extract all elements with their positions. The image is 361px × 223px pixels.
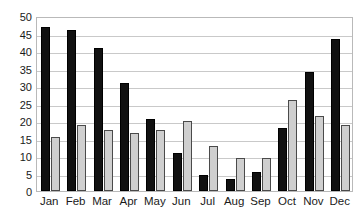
bar [199, 175, 208, 191]
x-axis-tick-label: Jan [36, 196, 62, 208]
bars-layer [37, 18, 352, 191]
x-axis-tick-label: Feb [62, 196, 88, 208]
y-axis: 05101520253035404550 [0, 17, 32, 192]
x-axis-tick-label: Nov [300, 196, 326, 208]
x-axis-tick-label: Apr [115, 196, 141, 208]
y-axis-tick-label: 40 [2, 47, 32, 58]
bar [315, 116, 324, 191]
bar [183, 121, 192, 191]
y-axis-tick-label: 20 [2, 117, 32, 128]
y-axis-tick-label: 25 [2, 99, 32, 110]
bar [146, 119, 155, 191]
bar [94, 48, 103, 192]
bar [341, 125, 350, 192]
x-axis: JanFebMarAprMayJunJulAugSepOctNovDec [36, 194, 353, 218]
x-axis-tick-label: May [142, 196, 168, 208]
y-axis-tick-label: 45 [2, 29, 32, 40]
bar-chart: 05101520253035404550 JanFebMarAprMayJunJ… [0, 0, 361, 223]
bar [104, 130, 113, 191]
y-axis-tick-label: 10 [2, 152, 32, 163]
bar [51, 137, 60, 191]
bar [278, 128, 287, 191]
y-axis-tick-label: 35 [2, 64, 32, 75]
bar [173, 153, 182, 192]
plot-area [36, 17, 353, 192]
bar [262, 158, 271, 191]
x-axis-tick-label: Sep [247, 196, 273, 208]
bar [120, 83, 129, 192]
bar [156, 130, 165, 191]
bar [226, 179, 235, 191]
y-axis-tick-label: 5 [2, 169, 32, 180]
x-axis-tick-label: Aug [221, 196, 247, 208]
bar [331, 39, 340, 191]
x-axis-tick-label: Oct [274, 196, 300, 208]
x-axis-tick-label: Jul [195, 196, 221, 208]
bar [252, 172, 261, 191]
x-axis-tick-label: Jun [168, 196, 194, 208]
bar [130, 133, 139, 191]
y-axis-tick-label: 50 [2, 12, 32, 23]
bar [209, 146, 218, 192]
bar [305, 72, 314, 191]
bar [41, 27, 50, 192]
y-axis-tick-label: 0 [2, 187, 32, 198]
x-axis-tick-label: Dec [327, 196, 353, 208]
y-axis-tick-label: 15 [2, 134, 32, 145]
x-axis-tick-label: Mar [89, 196, 115, 208]
y-axis-tick-label: 30 [2, 82, 32, 93]
bar [67, 30, 76, 191]
bar [288, 100, 297, 191]
bar [236, 158, 245, 191]
bar [77, 125, 86, 192]
